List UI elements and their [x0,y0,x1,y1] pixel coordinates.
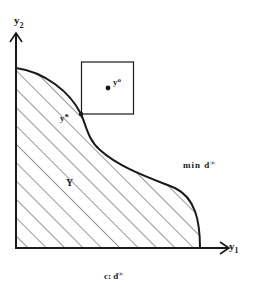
x-axis-label: y1 [229,240,239,255]
optimal-point-label: y* [60,112,70,123]
feasible-region [0,0,253,293]
caption: c: d∞ [104,270,123,281]
ideal-point-label: yo [113,76,122,87]
diagram-canvas: y2 y1 yo y* Y min d∞ c: d∞ [0,0,253,293]
min-distance-label: min d∞ [183,159,216,170]
region-label: Y [66,177,74,188]
y-axis-label: y2 [14,14,24,30]
ideal-point-marker [106,86,111,91]
optimal-point-marker [79,112,83,116]
